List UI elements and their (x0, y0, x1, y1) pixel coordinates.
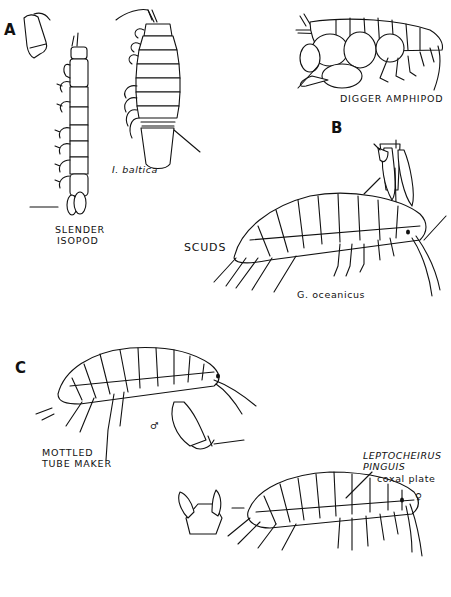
g-oceanicus-label: G. oceanicus (297, 290, 365, 301)
i-baltica-drawing (116, 9, 200, 168)
field-guide-plate: A B C SLENDER ISOPOD I. baltica DIGGER A… (0, 0, 451, 597)
digger-amphipod-drawing (296, 14, 443, 90)
coxal-plate-label: coxal plate (377, 474, 436, 485)
isopod-leg-detail-drawing (24, 13, 50, 58)
i-baltica-label: I. baltica (112, 165, 158, 176)
mottled-tube-maker-drawing (36, 348, 256, 460)
illustrations (0, 0, 451, 597)
section-letter-c: C (15, 360, 26, 377)
section-letter-b: B (331, 120, 342, 137)
slender-isopod-label-line2: ISOPOD (57, 236, 99, 247)
male-symbol: ♂ (150, 421, 159, 432)
section-letter-a: A (4, 22, 16, 39)
mottled-tube-maker-label-line2: TUBE MAKER (42, 459, 112, 470)
g-oceanicus-drawing (214, 140, 446, 296)
female-symbol: ♀ (415, 492, 423, 503)
scuds-label: SCUDS (184, 242, 226, 255)
leptocheirus-label-line2: PINGUIS (363, 462, 405, 473)
leptocheirus-telson-detail-drawing (179, 490, 244, 534)
digger-amphipod-label: DIGGER AMPHIPOD (340, 94, 443, 105)
slender-isopod-drawing (30, 33, 88, 215)
